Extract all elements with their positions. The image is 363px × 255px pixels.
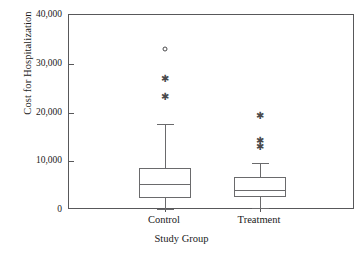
outlier-asterisk-marker: ✱ <box>256 113 264 119</box>
y-tick-label: 10,000 <box>14 155 62 165</box>
lower-whisker-cap <box>157 209 174 210</box>
box-iqr <box>234 177 286 197</box>
median-line <box>234 190 286 191</box>
y-tick-label: 40,000 <box>14 9 62 19</box>
y-tick-label: 0 <box>14 204 62 214</box>
x-tick-label-control: Control <box>148 214 180 226</box>
x-axis-title: Study Group <box>0 233 363 245</box>
y-tick-label: 30,000 <box>14 58 62 68</box>
boxplot-figure: Cost for Hospitalization 010,00020,00030… <box>0 0 363 255</box>
lower-whisker-cap <box>252 208 269 209</box>
y-axis-title: Cost for Hospitalization <box>22 0 34 143</box>
box-plot-treatment: ✱✱✱ <box>69 15 353 208</box>
upper-whisker-cap <box>252 163 269 164</box>
outlier-asterisk-marker: ✱ <box>256 138 264 144</box>
x-tick-label-treatment: Treatment <box>238 214 281 226</box>
lower-whisker-line <box>260 197 261 208</box>
plot-area: ✱✱✱✱✱ <box>68 14 354 209</box>
upper-whisker-line <box>260 163 261 177</box>
y-tick-label: 20,000 <box>14 107 62 117</box>
